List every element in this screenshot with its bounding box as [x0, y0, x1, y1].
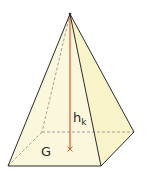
pyramid-diagram: hk G: [0, 0, 146, 174]
base-label: G: [41, 144, 51, 159]
height-label-subscript: k: [81, 117, 87, 127]
apex-point: [69, 13, 72, 16]
